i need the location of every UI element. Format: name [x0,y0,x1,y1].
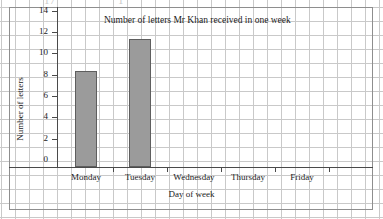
y-tick-label: 6 [44,90,49,101]
x-tick-mark [329,167,330,172]
y-tick-label: 10 [39,47,48,58]
bar [129,39,151,167]
y-tick-label: 8 [44,69,49,80]
plot-area [58,7,373,167]
y-tick-label: 0 [44,154,49,165]
x-axis-line [9,167,373,168]
y-tick-label: 12 [39,26,48,37]
x-category-label: Friday [262,171,342,183]
y-tick-label: 2 [44,133,49,144]
bar [75,71,97,167]
clipped-text-above: 17 1 [0,0,383,6]
y-tick-label: 14 [39,5,48,16]
graph-paper-page: 17 1 Number of letters Mr Khan received … [0,0,383,219]
y-tick-label: 4 [44,111,49,122]
x-axis-label: Day of week [0,188,383,200]
clipped-text-fragment-right: 1 [118,0,124,6]
